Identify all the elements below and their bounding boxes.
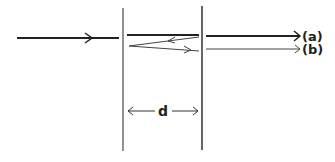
- incident-ray: [17, 33, 119, 43]
- label-thickness-d: d: [158, 103, 168, 119]
- output-ray-a: [206, 31, 300, 41]
- label-ray-b: (b): [302, 42, 323, 57]
- slab-reflection-diagram: (a) (b) d: [0, 0, 335, 162]
- output-ray-b: [206, 45, 300, 53]
- internal-reflected-ray-back: [129, 37, 199, 46]
- internal-reflected-ray-forward: [129, 46, 199, 53]
- arrowhead-right-icon: [184, 46, 191, 53]
